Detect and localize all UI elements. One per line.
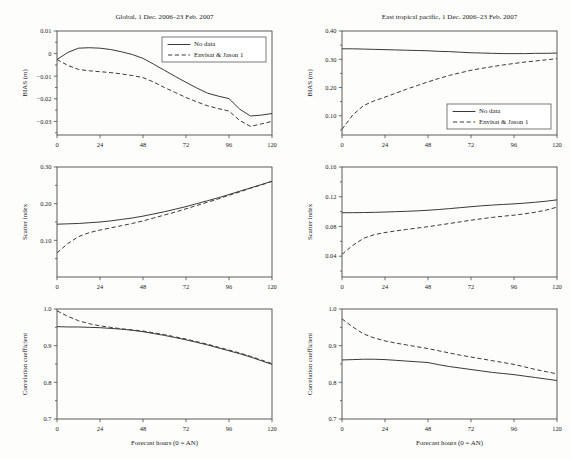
legend-label-envisat-jason1: Envisat & Jason 1 <box>194 51 243 58</box>
series-line-envisat-jason1 <box>57 59 272 126</box>
x-tick-label: 48 <box>425 425 431 432</box>
legend-label-no-data: No data <box>479 107 500 114</box>
y-tick-label: 0.12 <box>325 193 336 200</box>
x-tick-label: 48 <box>140 425 146 432</box>
y-tick-label: 0.7 <box>44 415 53 422</box>
x-tick-label: 0 <box>55 141 58 148</box>
series-line-no-data <box>342 359 557 380</box>
legend: No dataEnvisat & Jason 1 <box>447 104 551 129</box>
series-line-envisat-jason1 <box>342 319 557 374</box>
x-tick-label: 120 <box>552 425 562 432</box>
series-line-no-data <box>57 181 272 224</box>
y-tick-label: 1.0 <box>329 305 337 312</box>
y-tick-label: −0.01 <box>37 73 52 80</box>
y-axis-title: Correlation coefficient <box>21 333 28 396</box>
x-tick-label: 48 <box>140 283 146 290</box>
y-tick-label: 0.9 <box>329 342 337 349</box>
x-tick-label: 24 <box>97 425 104 432</box>
series-line-envisat-jason1 <box>342 207 557 254</box>
x-tick-label: 96 <box>226 141 232 148</box>
x-tick-label: 120 <box>552 283 562 290</box>
x-tick-label: 120 <box>267 283 277 290</box>
x-tick-label: 0 <box>340 283 343 290</box>
axes-frame <box>342 167 557 277</box>
y-axis-title: BIAS (m) <box>21 69 29 96</box>
x-tick-label: 24 <box>382 425 389 432</box>
y-tick-label: 1.0 <box>44 305 52 312</box>
x-tick-label: 48 <box>425 283 431 290</box>
y-tick-label: 0.04 <box>325 252 337 259</box>
x-tick-label: 96 <box>226 425 232 432</box>
panel-etp-correlation: 1.00.90.80.7024487296120Correlation coef… <box>285 299 571 459</box>
x-tick-label: 24 <box>97 283 104 290</box>
y-tick-label: 0.16 <box>325 163 336 170</box>
y-tick-label: 0.20 <box>325 84 336 91</box>
x-axis-title: Forecast hours (0 = AN) <box>416 439 483 447</box>
y-axis-title: Correlation coefficient <box>306 333 313 396</box>
x-tick-label: 120 <box>267 141 277 148</box>
x-tick-label: 72 <box>183 425 189 432</box>
figure-root: Global, 1 Dec. 2006–23 Feb. 20070.010−0.… <box>0 0 571 459</box>
series-line-no-data <box>342 200 557 213</box>
x-tick-label: 120 <box>267 425 277 432</box>
x-axis-title: Forecast hours (0 = AN) <box>131 439 198 447</box>
x-tick-label: 72 <box>468 283 474 290</box>
legend: No dataEnvisat & Jason 1 <box>162 37 266 62</box>
panel-global-correlation: 1.00.90.80.7024487296120Correlation coef… <box>0 299 286 459</box>
y-tick-label: 0.7 <box>329 415 338 422</box>
x-tick-label: 0 <box>340 425 343 432</box>
x-tick-label: 72 <box>468 425 474 432</box>
series-line-no-data <box>342 49 557 54</box>
panel-title: Global, 1 Dec. 2006–23 Feb. 2007 <box>115 13 214 21</box>
y-tick-label: 0.30 <box>325 56 336 63</box>
axes-frame <box>342 309 557 419</box>
x-tick-label: 0 <box>55 425 58 432</box>
x-tick-label: 0 <box>340 141 343 148</box>
panel-title: East tropical pacific, 1 Dec. 2006–23 Fe… <box>382 13 518 21</box>
legend-label-no-data: No data <box>194 40 215 47</box>
legend-label-envisat-jason1: Envisat & Jason 1 <box>479 118 528 125</box>
series-line-no-data <box>57 327 272 365</box>
x-tick-label: 96 <box>511 141 517 148</box>
x-tick-label: 96 <box>511 425 517 432</box>
axes-frame <box>57 309 272 419</box>
x-tick-label: 24 <box>382 283 389 290</box>
series-line-envisat-jason1 <box>57 181 272 253</box>
y-axis-title: Scatter index <box>21 203 28 240</box>
y-tick-label: 0.01 <box>40 27 51 34</box>
y-tick-label: 0.20 <box>40 200 51 207</box>
x-tick-label: 96 <box>226 283 232 290</box>
series-line-envisat-jason1 <box>57 311 272 364</box>
y-tick-label: −0.02 <box>37 95 52 102</box>
x-tick-label: 72 <box>183 283 189 290</box>
panel-etp-bias: East tropical pacific, 1 Dec. 2006–23 Fe… <box>285 2 571 157</box>
x-tick-label: 96 <box>511 283 517 290</box>
y-tick-label: 0.10 <box>325 112 336 119</box>
y-tick-label: 0.30 <box>40 163 51 170</box>
y-axis-title: Scatter index <box>306 203 313 240</box>
x-tick-label: 24 <box>97 141 104 148</box>
y-tick-label: 0 <box>48 50 51 57</box>
panel-global-bias: Global, 1 Dec. 2006–23 Feb. 20070.010−0.… <box>0 2 286 157</box>
panel-global-scatter: 0.300.200.10024487296120Scatter index <box>0 157 286 299</box>
x-tick-label: 0 <box>55 283 58 290</box>
x-tick-label: 72 <box>468 141 474 148</box>
panel-etp-scatter: 0.160.120.080.04024487296120Scatter inde… <box>285 157 571 299</box>
y-tick-label: 0.10 <box>40 237 51 244</box>
y-tick-label: 0.8 <box>329 379 337 386</box>
y-tick-label: −0.03 <box>37 118 52 125</box>
y-tick-label: 0.9 <box>44 342 52 349</box>
x-tick-label: 72 <box>183 141 189 148</box>
axes-frame <box>57 167 272 277</box>
y-tick-label: 0.40 <box>325 27 336 34</box>
x-tick-label: 120 <box>552 141 562 148</box>
x-tick-label: 48 <box>140 141 146 148</box>
y-axis-title: BIAS (m) <box>306 69 314 96</box>
y-tick-label: 0.08 <box>325 223 336 230</box>
y-tick-label: 0.8 <box>44 379 52 386</box>
x-tick-label: 48 <box>425 141 431 148</box>
x-tick-label: 24 <box>382 141 389 148</box>
